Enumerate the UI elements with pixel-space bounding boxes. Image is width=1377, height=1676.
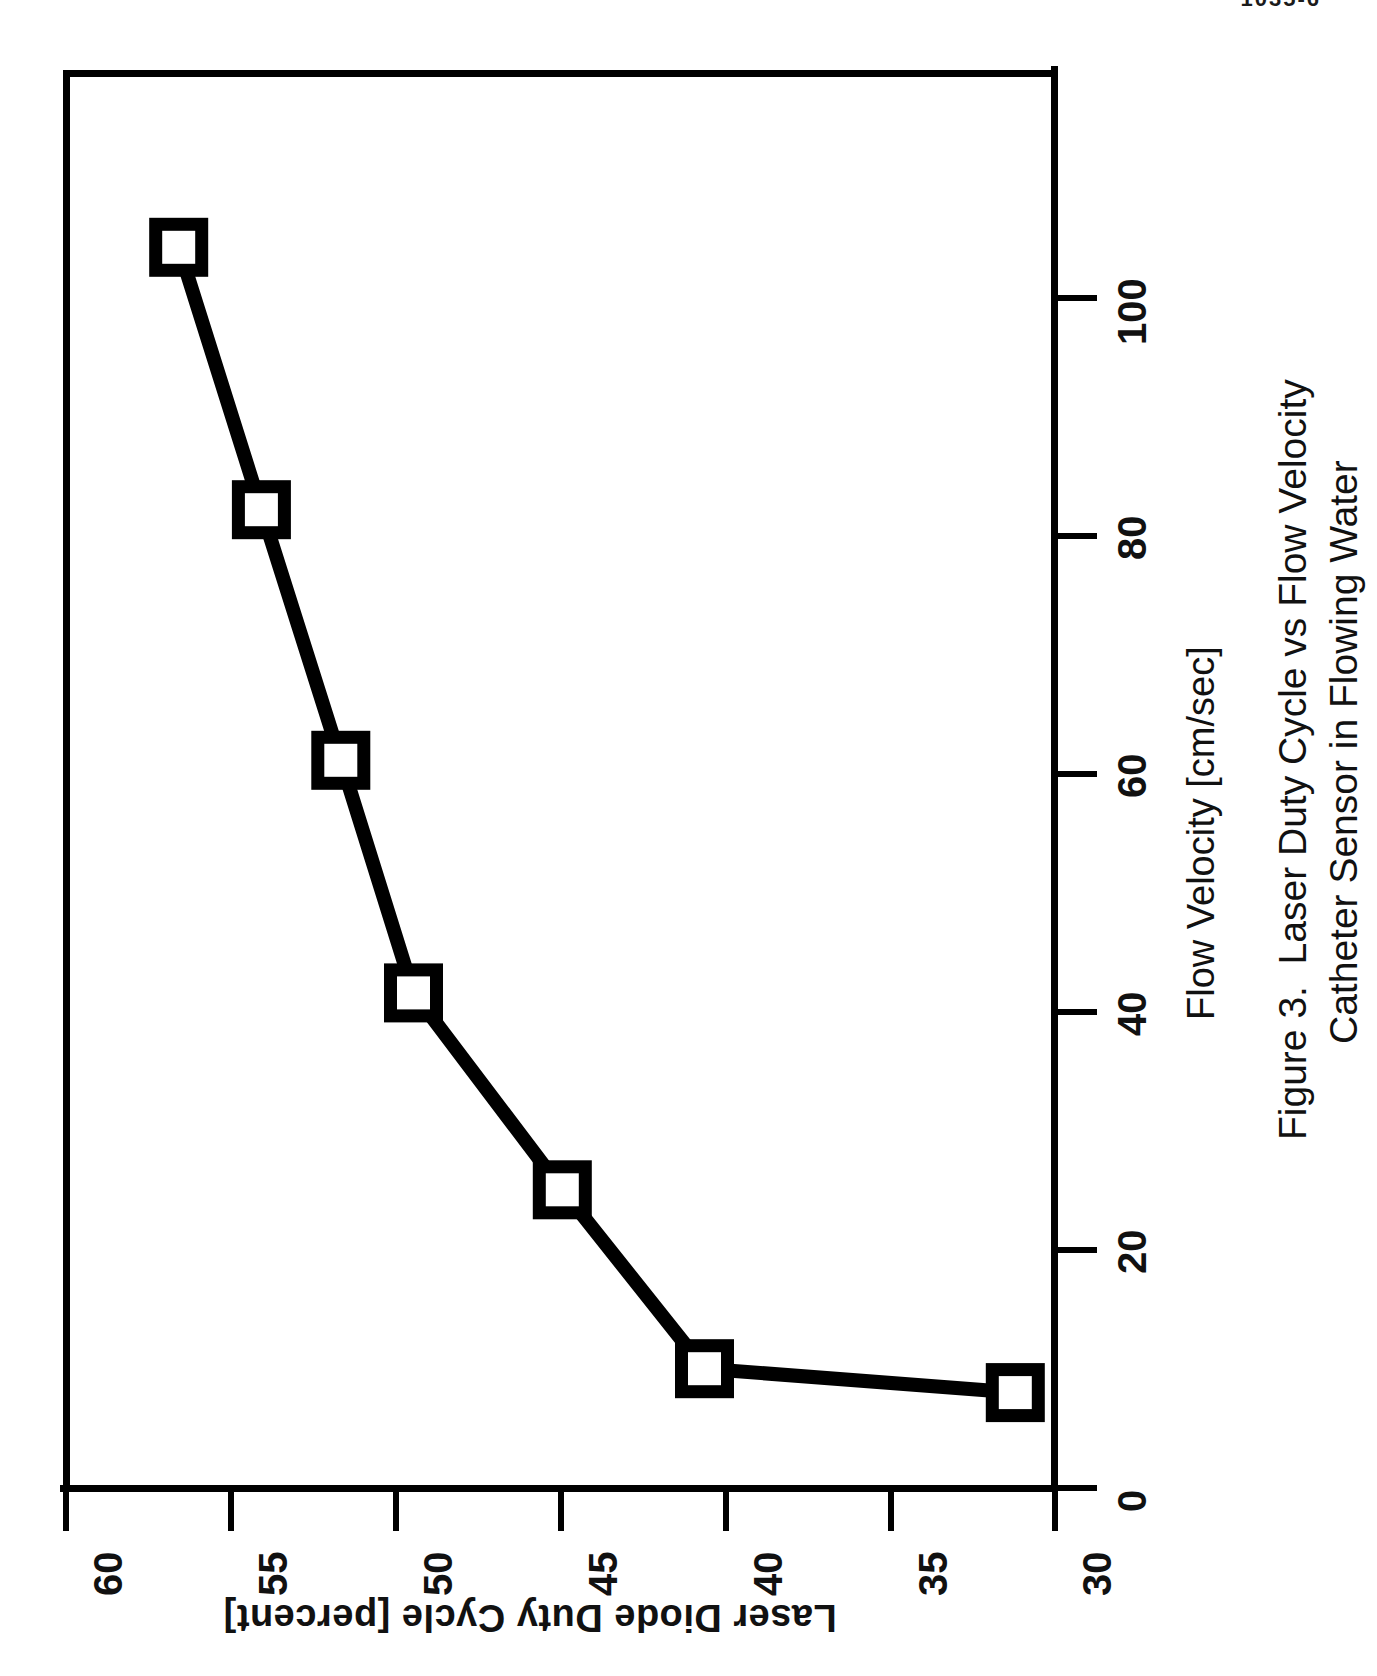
ticklabel-duty-40: 40 <box>746 1552 791 1597</box>
tick-flow-100 <box>1057 295 1097 301</box>
flow-velocity-axis-spine <box>1051 66 1058 1492</box>
tick-duty-45 <box>558 1491 564 1531</box>
ticklabel-flow-100: 100 <box>1110 278 1155 345</box>
tick-duty-60 <box>63 1491 69 1531</box>
ticklabel-flow-20: 20 <box>1110 1230 1155 1275</box>
caption-label: Figure 3. <box>1271 986 1314 1140</box>
caption-title-line1: Laser Duty Cycle vs Flow Velocity <box>1271 379 1314 964</box>
tick-flow-40 <box>1057 1009 1097 1015</box>
x-axis-title: Flow Velocity [cm/sec] <box>1180 646 1223 1020</box>
ticklabel-duty-35: 35 <box>911 1552 956 1597</box>
caption-line-1: Figure 3. Laser Duty Cycle vs Flow Veloc… <box>1268 379 1319 1140</box>
ticklabel-duty-30: 30 <box>1075 1552 1120 1597</box>
tick-flow-80 <box>1057 533 1097 539</box>
tick-duty-55 <box>228 1491 234 1531</box>
caption-line-2: Catheter Sensor in Flowing Water <box>1319 379 1370 1140</box>
tick-duty-35 <box>888 1491 894 1531</box>
ticklabel-flow-60: 60 <box>1110 754 1155 799</box>
ticklabel-duty-55: 55 <box>251 1552 296 1597</box>
figure-3: 60 55 50 45 40 35 30 0 20 40 60 80 100 L… <box>0 0 1377 1676</box>
y-axis-title: Laser Diode Duty Cycle [percent] <box>0 1596 1060 1639</box>
tick-duty-30 <box>1052 1491 1058 1531</box>
tick-duty-40 <box>723 1491 729 1531</box>
plot-frame <box>63 70 1055 1488</box>
figure-caption: Figure 3. Laser Duty Cycle vs Flow Veloc… <box>1268 379 1369 1140</box>
tick-duty-50 <box>393 1491 399 1531</box>
ticklabel-duty-60: 60 <box>86 1552 131 1597</box>
tick-flow-0 <box>1057 1485 1097 1491</box>
ticklabel-flow-0: 0 <box>1110 1490 1155 1512</box>
tick-flow-20 <box>1057 1247 1097 1253</box>
ticklabel-duty-50: 50 <box>416 1552 461 1597</box>
tick-flow-60 <box>1057 771 1097 777</box>
ticklabel-duty-45: 45 <box>581 1552 626 1597</box>
ticklabel-flow-40: 40 <box>1110 992 1155 1037</box>
ticklabel-flow-80: 80 <box>1110 516 1155 561</box>
